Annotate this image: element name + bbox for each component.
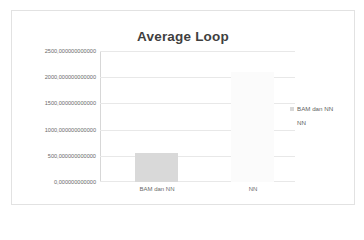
y-axis-tick-label: 1500,000000000000	[18, 100, 96, 106]
y-axis-tick-label: 1000,000000000000	[18, 127, 96, 133]
bar-group	[101, 51, 295, 182]
y-axis-tick-label: 0,000000000000	[18, 179, 96, 185]
y-axis-tick-label: 2000,000000000000	[18, 74, 96, 80]
chart-title: Average Loop	[12, 29, 354, 44]
legend-item-nn[interactable]: NN	[290, 120, 356, 126]
y-axis-tick-labels: 2500,000000000000 2000,000000000000 1500…	[18, 51, 96, 182]
legend-swatch-icon	[290, 107, 294, 111]
x-axis-tick-label: BAM dan NN	[139, 186, 174, 192]
legend-item-bam-dan-nn[interactable]: BAM dan NN	[290, 106, 356, 112]
chart-legend: BAM dan NN NN	[290, 106, 356, 134]
x-axis-tick-label: NN	[249, 186, 258, 192]
y-axis-tick-label: 500,000000000000	[18, 153, 96, 159]
legend-label: NN	[297, 120, 306, 126]
legend-label: BAM dan NN	[297, 106, 333, 112]
y-axis-tick-label: 2500,000000000000	[18, 48, 96, 54]
bar-nn[interactable]	[231, 72, 274, 182]
bar-bam-dan-nn[interactable]	[135, 153, 178, 182]
